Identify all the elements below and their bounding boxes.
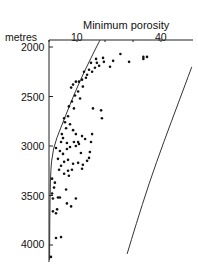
data-point xyxy=(81,135,84,138)
data-point xyxy=(81,167,84,170)
data-point xyxy=(78,80,81,83)
data-point xyxy=(95,58,98,61)
data-point xyxy=(119,53,122,56)
data-point xyxy=(61,133,64,136)
data-point xyxy=(90,62,93,65)
data-point xyxy=(60,141,63,144)
data-point xyxy=(60,165,63,168)
data-point xyxy=(75,80,78,83)
data-point xyxy=(63,172,66,175)
data-point xyxy=(86,73,89,76)
data-point xyxy=(58,168,61,171)
data-point xyxy=(79,97,82,100)
data-point xyxy=(74,94,77,97)
data-point xyxy=(67,115,70,118)
data-point xyxy=(85,76,88,79)
data-points xyxy=(50,53,149,259)
data-point xyxy=(50,256,53,259)
plot-area xyxy=(0,0,198,278)
data-point xyxy=(51,177,54,180)
data-point xyxy=(72,163,75,166)
envelope-curve xyxy=(50,40,100,260)
data-point xyxy=(65,127,68,130)
data-point xyxy=(98,65,101,68)
data-point xyxy=(59,196,62,199)
data-point xyxy=(55,237,58,240)
data-point xyxy=(65,188,68,191)
theoretical-curve xyxy=(127,67,192,254)
data-point xyxy=(142,56,145,59)
data-point xyxy=(66,142,69,145)
data-point xyxy=(60,236,63,239)
data-point xyxy=(68,174,71,177)
data-point xyxy=(52,197,55,200)
data-point xyxy=(82,85,85,88)
data-point xyxy=(63,117,66,120)
data-point xyxy=(91,70,94,73)
data-point xyxy=(69,123,72,126)
data-point xyxy=(90,141,93,144)
data-point xyxy=(89,151,92,154)
data-point xyxy=(55,212,58,215)
data-point xyxy=(82,164,85,167)
data-point xyxy=(67,159,70,162)
data-point xyxy=(83,70,86,73)
data-point xyxy=(54,181,57,184)
data-point xyxy=(86,160,89,163)
data-point xyxy=(75,133,78,136)
data-point xyxy=(73,141,76,144)
data-point xyxy=(109,66,112,69)
data-point xyxy=(53,186,56,189)
data-point xyxy=(68,105,71,108)
data-point xyxy=(69,146,72,149)
data-point xyxy=(62,137,65,140)
data-point xyxy=(128,61,131,64)
data-point xyxy=(59,150,62,153)
axes xyxy=(49,40,193,262)
data-point xyxy=(64,121,67,124)
data-point xyxy=(71,100,74,103)
data-point xyxy=(81,78,84,81)
porosity-depth-chart: Minimum porosity metres 10 40 2000 2500 … xyxy=(0,0,198,278)
data-point xyxy=(88,68,91,71)
data-point xyxy=(51,192,54,195)
data-point xyxy=(70,205,73,208)
data-point xyxy=(56,208,59,211)
data-point xyxy=(72,129,75,132)
data-point xyxy=(63,161,66,164)
data-point xyxy=(70,86,73,89)
data-point xyxy=(100,109,103,112)
data-point xyxy=(77,162,80,165)
data-point xyxy=(72,83,75,86)
data-point xyxy=(88,157,91,160)
data-point xyxy=(102,57,105,60)
data-point xyxy=(52,210,55,213)
data-point xyxy=(78,143,81,146)
data-point xyxy=(66,202,69,205)
data-point xyxy=(73,107,76,110)
data-point xyxy=(77,90,80,93)
data-point xyxy=(112,60,115,63)
data-point xyxy=(62,153,65,156)
data-point xyxy=(71,168,74,171)
data-point xyxy=(94,66,97,69)
data-point xyxy=(66,148,69,151)
data-point xyxy=(80,152,83,155)
data-point xyxy=(75,197,78,200)
data-point xyxy=(103,61,106,64)
data-point xyxy=(55,147,58,150)
data-point xyxy=(146,56,149,59)
data-point xyxy=(75,145,78,148)
data-point xyxy=(91,133,94,136)
data-point xyxy=(57,158,60,161)
curves xyxy=(50,40,192,260)
data-point xyxy=(92,107,95,110)
data-point xyxy=(101,117,104,120)
data-point xyxy=(67,169,70,172)
data-point xyxy=(84,138,87,141)
data-point xyxy=(96,62,99,65)
